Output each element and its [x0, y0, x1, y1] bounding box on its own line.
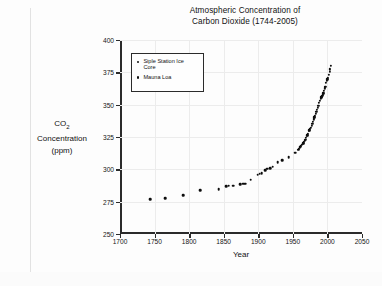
data-point — [272, 165, 275, 168]
data-point — [313, 116, 315, 118]
chart-title-line-2: Carbon Dioxide (1744-2005) — [150, 17, 340, 28]
gridline-vertical — [224, 40, 225, 234]
data-point — [276, 161, 279, 164]
gridline-horizontal — [120, 40, 362, 41]
y-axis-tick — [116, 169, 120, 170]
data-point — [227, 184, 230, 187]
x-axis-tick-label: 1950 — [286, 238, 301, 245]
data-point — [244, 182, 247, 185]
y-axis-tick — [116, 72, 120, 73]
gridline-horizontal — [120, 105, 362, 106]
data-point — [317, 105, 319, 107]
legend-marker-dot-icon — [137, 61, 139, 63]
data-point — [312, 118, 314, 120]
data-point — [182, 194, 185, 197]
x-axis-tick-label: 1700 — [113, 238, 128, 245]
gridline-vertical — [258, 40, 259, 234]
data-point — [312, 121, 314, 123]
y-axis-tick — [116, 137, 120, 138]
y-axis-tick-label: 375 — [103, 69, 114, 76]
y-axis-tick — [116, 40, 120, 41]
data-point — [232, 184, 235, 187]
x-axis-line — [120, 232, 362, 234]
legend-label-mauna-loa: Mauna Loa — [143, 74, 171, 80]
y-axis-tick — [116, 202, 120, 203]
x-axis-tick-label: 1850 — [216, 238, 231, 245]
data-point — [304, 138, 306, 140]
data-point — [317, 107, 319, 109]
x-axis-tick-label: 1800 — [182, 238, 197, 245]
data-point — [322, 92, 324, 94]
data-point — [310, 127, 312, 129]
x-axis-tick-label: 1750 — [147, 238, 162, 245]
chart-title-line-1: Atmospheric Concentration of — [150, 6, 340, 17]
y-axis-title-co: CO — [54, 119, 66, 128]
chart-figure: Atmospheric Concentration of Carbon Diox… — [0, 0, 382, 286]
y-axis-tick — [116, 105, 120, 106]
gridline-horizontal — [120, 169, 362, 170]
data-point — [281, 159, 284, 162]
y-axis-tick-label: 350 — [103, 101, 114, 108]
data-point — [311, 122, 313, 124]
gridline-horizontal — [120, 137, 362, 138]
data-point — [323, 90, 325, 92]
data-point — [294, 151, 297, 154]
data-point — [249, 178, 252, 181]
y-axis-title-line-3: (ppm) — [14, 145, 110, 157]
x-axis-tick-label: 1900 — [251, 238, 266, 245]
data-point — [329, 68, 331, 70]
gridline-horizontal — [120, 202, 362, 203]
y-axis-title-line-1: CO2 — [14, 118, 110, 133]
y-axis-tick-label: 250 — [103, 231, 114, 238]
data-point — [316, 109, 318, 111]
y-axis-title-subscript: 2 — [66, 124, 69, 130]
y-axis-tick-label: 300 — [103, 166, 114, 173]
y-axis-tick-label: 275 — [103, 198, 114, 205]
data-point — [302, 142, 304, 144]
scan-artifact-bottom-band — [0, 272, 382, 286]
legend-label-siple: Siple Station Ice Core — [143, 58, 183, 71]
data-point — [218, 188, 221, 191]
legend-marker-dot-icon — [137, 76, 139, 78]
data-point — [149, 198, 152, 201]
chart-title: Atmospheric Concentration of Carbon Diox… — [150, 6, 340, 27]
data-point — [287, 156, 290, 159]
x-axis-tick-label: 2050 — [355, 238, 370, 245]
data-point — [328, 74, 330, 76]
y-axis-tick-label: 400 — [103, 37, 114, 44]
x-axis-tick-label: 2000 — [320, 238, 335, 245]
data-point — [330, 65, 332, 67]
x-axis-title: Year — [120, 250, 362, 259]
data-point — [321, 94, 323, 96]
y-axis-title-line-2: Concentration — [14, 133, 110, 145]
data-point — [199, 189, 202, 192]
legend-item-siple-station-ice-core: Siple Station Ice Core — [137, 58, 199, 71]
data-point — [310, 124, 312, 126]
data-point — [307, 133, 309, 135]
chart-legend: Siple Station Ice Core Mauna Loa — [131, 53, 204, 92]
data-point — [314, 115, 316, 117]
data-point — [260, 172, 263, 175]
gridline-vertical — [293, 40, 294, 234]
data-point — [324, 86, 326, 88]
legend-item-mauna-loa: Mauna Loa — [137, 74, 199, 80]
data-point — [315, 110, 317, 112]
y-axis-title: CO2 Concentration (ppm) — [14, 118, 110, 157]
data-point — [318, 101, 320, 103]
data-point — [315, 113, 317, 115]
data-point — [319, 100, 321, 102]
data-point — [164, 197, 167, 200]
data-point — [327, 76, 329, 78]
